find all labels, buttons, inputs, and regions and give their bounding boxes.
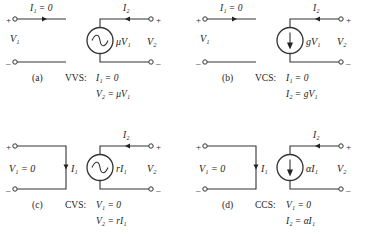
terminal-plus-left: + <box>196 15 201 25</box>
panel-a: +–+–I₁ = 0V₁I₂V₂μV₁(a)VVS:I₁ = 0V₂ = μV₁ <box>5 3 161 99</box>
output-top-wire <box>290 146 341 155</box>
terminal-minus-left: – <box>195 185 201 195</box>
output-bottom-wire <box>290 181 341 190</box>
terminal-node <box>149 144 153 148</box>
terminal-node <box>149 60 153 64</box>
source-value-label: αI₁ <box>306 163 318 174</box>
equation-2: V₂ = rI₁ <box>96 216 126 226</box>
panel-c: +–+–I₁V₁ = 0I₂V₂rI₁(c)CVS:V₁ = 0V₂ = rI₁ <box>5 130 161 226</box>
output-current-arrow <box>315 144 320 149</box>
output-bottom-wire <box>100 181 151 190</box>
terminal-node <box>203 17 207 21</box>
panel-b: +–+–I₁ = 0V₁I₂V₂gV₁(b)VCS:I₁ = 0I₂ = gV₁ <box>195 3 351 99</box>
terminal-minus-right: – <box>345 185 351 195</box>
terminal-node <box>13 187 17 191</box>
terminal-minus-left: – <box>5 185 11 195</box>
terminal-node <box>13 144 17 148</box>
equation-2: I₂ = αI₁ <box>285 216 315 226</box>
source-value-label: μV₁ <box>115 36 131 47</box>
source-type-label: CVS: <box>65 200 86 210</box>
output-current-arrow <box>125 17 130 22</box>
output-current-arrow <box>125 144 130 149</box>
source-type-label: VVS: <box>65 73 87 83</box>
terminal-minus-left: – <box>5 58 11 68</box>
input-current-label: I₁ <box>70 163 78 174</box>
input-current-label: I₁ = 0 <box>29 3 53 13</box>
input-current-arrow <box>64 165 69 170</box>
input-current-arrow <box>232 17 237 22</box>
source-value-label: gV₁ <box>306 36 321 47</box>
output-voltage-label: V₂ <box>337 36 347 47</box>
output-voltage-label: V₂ <box>147 36 157 47</box>
terminal-node <box>339 187 343 191</box>
terminal-plus-left: + <box>6 15 11 25</box>
input-voltage-label: V₁ <box>10 33 20 44</box>
terminal-plus-right: + <box>346 142 351 152</box>
source-type-label: VCS: <box>255 73 276 83</box>
output-top-wire <box>100 146 151 155</box>
output-current-label: I₂ <box>312 130 320 140</box>
terminal-node <box>13 17 17 21</box>
terminal-minus-left: – <box>195 58 201 68</box>
terminal-node <box>203 144 207 148</box>
terminal-node <box>203 187 207 191</box>
terminal-node <box>203 60 207 64</box>
equation-1: V₁ = 0 <box>96 200 121 210</box>
terminal-minus-right: – <box>155 185 161 195</box>
terminal-node <box>13 60 17 64</box>
source-value-label: rI₁ <box>116 163 127 174</box>
output-top-wire <box>100 19 151 28</box>
panel-d: +–+–I₁V₁ = 0I₂V₂αI₁(d)CCS:V₁ = 0I₂ = αI₁ <box>195 130 351 226</box>
output-current-label: I₂ <box>122 3 130 13</box>
source-type-label: CCS: <box>255 200 276 210</box>
output-bottom-wire <box>100 54 151 63</box>
terminal-plus-right: + <box>346 15 351 25</box>
input-voltage-label: V₁ = 0 <box>9 163 35 174</box>
terminal-node <box>339 17 343 21</box>
terminal-node <box>339 60 343 64</box>
equation-1: I₁ = 0 <box>285 73 309 83</box>
input-current-arrow <box>42 17 47 22</box>
input-current-label: I₁ <box>260 163 268 174</box>
terminal-plus-right: + <box>156 142 161 152</box>
panel-caption: (c) <box>32 200 43 211</box>
equation-1: I₁ = 0 <box>95 73 119 83</box>
dependent-sources-figure: +–+–I₁ = 0V₁I₂V₂μV₁(a)VVS:I₁ = 0V₂ = μV₁… <box>0 0 377 234</box>
equation-2: I₂ = gV₁ <box>285 89 317 99</box>
panel-caption: (a) <box>32 73 43 84</box>
terminal-minus-right: – <box>345 58 351 68</box>
terminal-minus-right: – <box>155 58 161 68</box>
terminal-node <box>149 17 153 21</box>
terminal-plus-left: + <box>6 142 11 152</box>
terminal-plus-right: + <box>156 15 161 25</box>
output-current-label: I₂ <box>312 3 320 13</box>
output-top-wire <box>290 19 341 28</box>
equation-2: V₂ = μV₁ <box>96 89 130 99</box>
panel-caption: (b) <box>222 73 233 84</box>
output-bottom-wire <box>290 54 341 63</box>
terminal-node <box>149 187 153 191</box>
input-current-arrow <box>254 165 259 170</box>
terminal-node <box>339 144 343 148</box>
input-current-label: I₁ = 0 <box>219 3 243 13</box>
output-voltage-label: V₂ <box>337 163 347 174</box>
input-voltage-label: V₁ = 0 <box>199 163 225 174</box>
terminal-plus-left: + <box>196 142 201 152</box>
output-current-label: I₂ <box>122 130 130 140</box>
output-voltage-label: V₂ <box>147 163 157 174</box>
output-current-arrow <box>315 17 320 22</box>
panel-caption: (d) <box>222 200 233 211</box>
equation-1: V₁ = 0 <box>286 200 311 210</box>
input-voltage-label: V₁ <box>200 33 210 44</box>
